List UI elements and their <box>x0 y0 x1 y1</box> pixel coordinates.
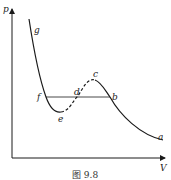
point-label-e: e <box>58 114 63 124</box>
pv-isotherm-diagram: p V g f e d c b a 图 9.8 <box>0 0 171 180</box>
figure-caption: 图 9.8 <box>72 170 98 180</box>
curve-cba <box>95 80 163 140</box>
point-label-f: f <box>36 92 42 102</box>
point-label-c: c <box>93 69 98 79</box>
point-label-d: d <box>74 87 80 97</box>
x-axis-label: V <box>160 163 168 173</box>
y-axis-label: p <box>3 4 9 14</box>
point-label-a: a <box>158 132 163 142</box>
point-label-b: b <box>112 92 118 102</box>
point-label-g: g <box>34 25 40 35</box>
